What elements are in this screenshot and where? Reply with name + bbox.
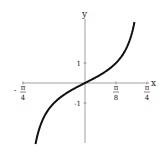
tick-label: π bbox=[21, 84, 26, 92]
tan-plot: x y π4-π8π41-1 bbox=[0, 0, 166, 153]
tick-label: 1 bbox=[77, 60, 81, 68]
tick-label: π bbox=[145, 84, 150, 92]
tick-label: π bbox=[114, 84, 119, 92]
tick-label: - bbox=[14, 86, 17, 95]
tick-label: 4 bbox=[145, 94, 150, 102]
tick-label: 4 bbox=[21, 94, 26, 102]
x-axis-label: x bbox=[151, 78, 156, 88]
y-axis-label: y bbox=[81, 9, 88, 19]
tick-label: 8 bbox=[114, 94, 118, 102]
tick-label: -1 bbox=[74, 100, 81, 108]
